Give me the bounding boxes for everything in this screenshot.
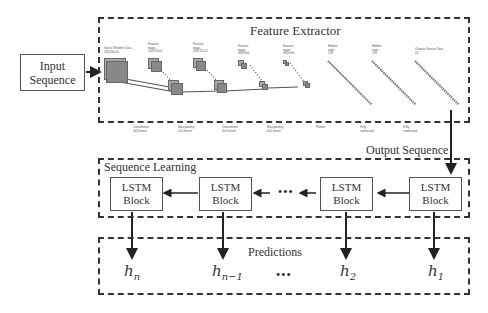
- prediction-h-1: h1: [428, 262, 444, 282]
- feature-extractor-title: Feature Extractor: [250, 23, 341, 39]
- prediction-h-n: hn: [124, 262, 140, 282]
- lstm-block-n: LSTM Block: [110, 177, 163, 211]
- op-label-conv1: Convolution 3x3 kernel: [133, 126, 149, 133]
- prediction-h-2: h2: [340, 262, 356, 282]
- fmap1: [151, 61, 162, 72]
- lstm-block-1: LSTM Block: [409, 177, 462, 211]
- layer-label-fmap3: Feature maps 48@6x6: [238, 45, 249, 56]
- op-label-fc1: Fully connected: [360, 126, 374, 133]
- fmap7: [285, 62, 289, 66]
- input-map: [106, 61, 128, 83]
- fmap6: [262, 84, 268, 90]
- sequence-ellipsis: •••: [278, 185, 294, 200]
- fmap3: [196, 61, 206, 71]
- layer-label-fmap2: Feature maps 24@12x12: [193, 43, 208, 54]
- fmap4: [217, 83, 227, 93]
- lstm-block-2: LSTM Block: [320, 177, 373, 211]
- input-label-line2: Sequence: [30, 73, 76, 87]
- op-label-fc2: Fully connected: [403, 126, 417, 133]
- layer-label-fmap1: Feature maps 24@12x12: [148, 43, 163, 54]
- fmap2: [171, 83, 183, 95]
- sequence-learning-title: Sequence Learning: [104, 160, 196, 175]
- op-label-pool1: Max-pooling 2x2 kernel: [178, 126, 194, 133]
- op-label-flatten: Flatten: [316, 126, 325, 130]
- output-sequence-label: Output Sequence: [366, 143, 448, 158]
- prediction-h-n-minus-1: hn−1: [212, 262, 243, 282]
- layer-label-output: Outputs Sensor Data 24: [415, 48, 443, 55]
- layer-label-hidden2: Hidden units 128: [372, 45, 382, 56]
- op-label-pool2: Max-pooling 2x2 kernel: [267, 126, 283, 133]
- predictions-ellipsis: •••: [276, 268, 292, 283]
- layer-label-fmap4: Feature maps 48@6x6: [283, 45, 294, 56]
- fmap5: [241, 63, 247, 69]
- layer-label-input: Inputs Weather Data 32@24x24: [104, 47, 131, 54]
- op-label-conv2: Convolution 3x3 kernel: [222, 126, 238, 133]
- input-label-line1: Input: [40, 59, 65, 73]
- predictions-title: Predictions: [248, 245, 302, 260]
- fmap8: [305, 83, 310, 88]
- lstm-block-n-1: LSTM Block: [199, 177, 252, 211]
- input-sequence-box: Input Sequence: [20, 54, 85, 91]
- layer-label-hidden1: Hidden units 128: [328, 45, 338, 56]
